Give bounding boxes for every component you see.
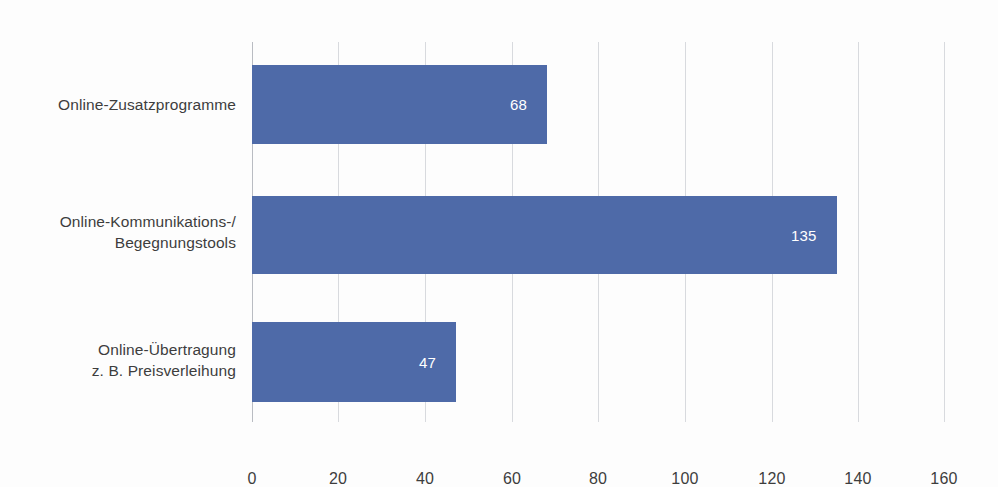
xtick-label-100: 100 <box>655 470 715 487</box>
gridline-140 <box>858 42 859 422</box>
xtick-label-40: 40 <box>395 470 455 487</box>
xtick-label-0: 0 <box>222 470 282 487</box>
category-label-online-zusatzprogramme: Online-Zusatzprogramme <box>6 95 236 116</box>
xtick-label-20: 20 <box>308 470 368 487</box>
bar-value-online-uebertragung-preisverleihung: 47 <box>419 355 436 370</box>
plot-area: 68 135 47 0 20 40 60 80 100 120 140 160 <box>252 42 945 422</box>
category-label-online-kommunikations-begegnungstools: Online-Kommunikations-/ Begegnungstools <box>6 212 236 254</box>
bar-value-online-zusatzprogramme: 68 <box>510 97 527 112</box>
category-label-online-uebertragung-preisverleihung: Online-Übertragung z. B. Preisverleihung <box>6 340 236 382</box>
xtick-label-60: 60 <box>482 470 542 487</box>
xtick-label-160: 160 <box>914 470 974 487</box>
xtick-label-140: 140 <box>828 470 888 487</box>
bar-online-zusatzprogramme <box>252 65 547 144</box>
bar-online-kommunikations-begegnungstools <box>252 196 837 274</box>
bar-value-online-kommunikations-begegnungstools: 135 <box>791 228 817 243</box>
gridline-160 <box>944 42 945 422</box>
xtick-label-80: 80 <box>568 470 628 487</box>
xtick-label-120: 120 <box>742 470 802 487</box>
bar-chart: Online-Zusatzprogramme Online-Kommunikat… <box>0 0 998 487</box>
